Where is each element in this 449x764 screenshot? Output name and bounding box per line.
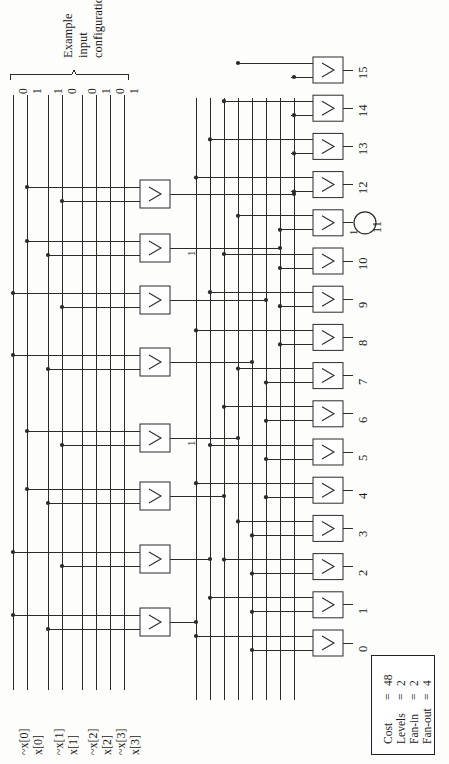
output-gate-15-number: 15 xyxy=(357,67,370,80)
legend-equals-2: = xyxy=(408,694,420,701)
output-gate-7 xyxy=(313,363,343,389)
output-gate-10 xyxy=(313,248,343,274)
brace-label-line-3: configuration xyxy=(92,0,105,58)
input-label-0: ~x[0] xyxy=(18,729,30,755)
legend-label-3: Fan-out xyxy=(421,708,433,744)
output-gate-6 xyxy=(313,401,343,427)
brace-label-line-1: Example xyxy=(62,14,75,58)
legend-label-0: Cost xyxy=(382,723,394,744)
output-gate-11-value: 1 xyxy=(349,230,360,235)
output-gate-9 xyxy=(313,286,343,312)
example-bit-6: 0 xyxy=(115,88,127,94)
output-gate-10-number: 10 xyxy=(357,258,370,271)
circuit-schematic xyxy=(0,0,449,764)
input-label-6: ~x[3] xyxy=(115,729,127,755)
example-bit-1: 1 xyxy=(32,88,44,94)
level1-gate-6 xyxy=(140,234,170,262)
legend-equals-1: = xyxy=(395,694,407,701)
legend-equals-3: = xyxy=(421,694,433,701)
output-gate-14-number: 14 xyxy=(357,105,370,118)
output-gate-11 xyxy=(313,210,343,236)
input-label-1: x[0] xyxy=(32,735,44,755)
output-gate-9-number: 9 xyxy=(357,302,370,308)
level1-gate-4 xyxy=(140,348,170,376)
output-gate-13 xyxy=(313,133,343,159)
output-gate-1-number: 1 xyxy=(357,608,370,614)
output-gate-5 xyxy=(313,439,343,465)
level1-gate-7 xyxy=(140,180,170,208)
output-gate-5-number: 5 xyxy=(357,455,370,461)
output-gate-14 xyxy=(313,95,343,121)
output-gate-13-number: 13 xyxy=(357,143,370,156)
legend-equals-0: = xyxy=(382,694,394,701)
level1-gate-0 xyxy=(140,608,170,636)
output-gate-2 xyxy=(313,554,343,580)
example-bit-4: 0 xyxy=(87,88,99,94)
output-gate-4 xyxy=(313,477,343,503)
example-bit-7: 1 xyxy=(129,88,141,94)
input-label-2: ~x[1] xyxy=(53,729,65,755)
output-gate-8 xyxy=(313,324,343,350)
output-gate-3 xyxy=(313,515,343,541)
legend-value-2: 2 xyxy=(408,680,420,686)
legend-label-2: Fan-in xyxy=(408,714,420,744)
input-label-3: x[1] xyxy=(67,735,79,755)
output-gate-8-number: 8 xyxy=(357,340,370,346)
output-gate-15 xyxy=(313,57,343,83)
level1-gate-2 xyxy=(140,482,170,510)
figure-canvas: 01100101~x[0]x[0]~x[1]x[1]~x[2]x[2]~x[3]… xyxy=(0,0,449,764)
example-bit-3: 0 xyxy=(67,88,79,94)
legend-value-0: 48 xyxy=(382,675,394,687)
example-bit-0: 0 xyxy=(18,88,30,94)
example-config-brace xyxy=(10,70,128,80)
output-gate-12-number: 12 xyxy=(357,181,370,194)
input-label-4: ~x[2] xyxy=(87,729,99,755)
level1-gate-1 xyxy=(140,545,170,573)
level1-gate-6-value: 1 xyxy=(186,251,197,257)
level1-gate-5 xyxy=(140,286,170,314)
output-gate-0 xyxy=(313,630,343,656)
input-label-7: x[3] xyxy=(129,735,141,755)
output-gate-6-number: 6 xyxy=(357,417,370,423)
output-gate-7-number: 7 xyxy=(357,378,370,384)
example-bit-5: 1 xyxy=(101,88,113,94)
legend-value-1: 2 xyxy=(395,680,407,686)
output-gate-3-number: 3 xyxy=(357,531,370,537)
input-label-5: x[2] xyxy=(101,735,113,755)
output-gate-11-number: 11 xyxy=(371,221,384,233)
output-gate-12 xyxy=(313,172,343,198)
output-gate-4-number: 4 xyxy=(357,493,370,499)
brace-label-line-2: input xyxy=(77,32,90,58)
level1-gate-3-value: 1 xyxy=(186,441,197,447)
legend-label-1: Levels xyxy=(395,713,407,744)
level1-gate-3 xyxy=(140,424,170,452)
output-gate-2-number: 2 xyxy=(357,569,370,575)
output-gate-1 xyxy=(313,592,343,618)
legend-box: Cost=48Levels=2Fan-in=2Fan-out=4 xyxy=(371,655,435,755)
example-bit-2: 1 xyxy=(53,88,65,94)
legend-value-3: 4 xyxy=(421,680,433,686)
output-gate-0-number: 0 xyxy=(357,646,370,652)
